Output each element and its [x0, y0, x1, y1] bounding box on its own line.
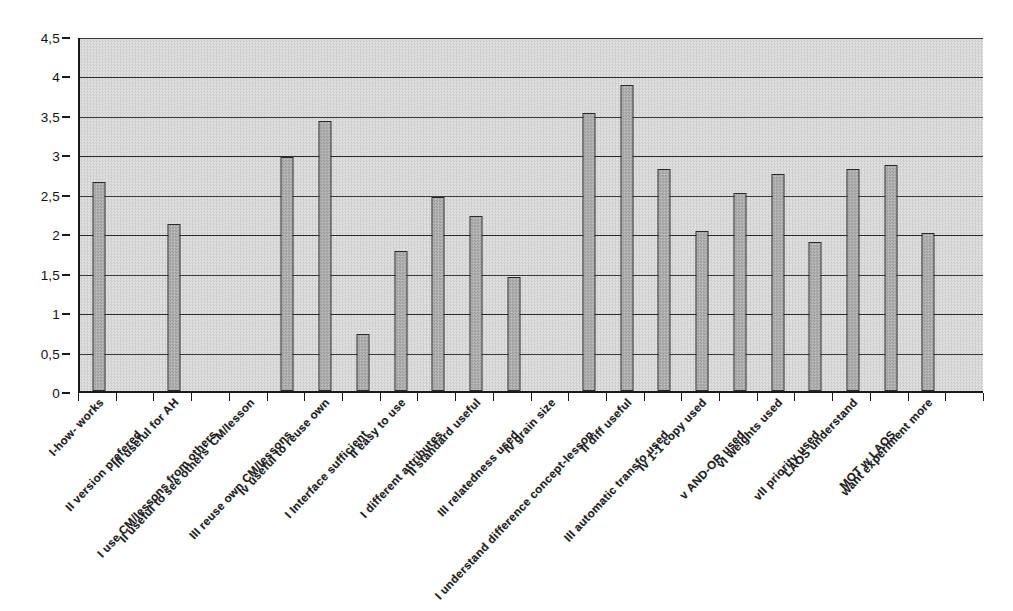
bar-slot — [570, 38, 608, 391]
y-tick-mark — [62, 116, 70, 118]
bar-slot — [721, 38, 759, 391]
bar — [733, 193, 746, 391]
bar-slot — [683, 38, 721, 391]
bar-slot — [495, 38, 533, 391]
bar — [432, 197, 445, 391]
x-axis-label: LAOS understand — [781, 396, 860, 479]
y-tick-label: 1,5 — [41, 267, 60, 282]
y-tick-label: 0,5 — [41, 346, 60, 361]
bar-slot — [419, 38, 457, 391]
bar — [771, 174, 784, 391]
bar-slot — [608, 38, 646, 391]
y-tick-mark — [62, 353, 70, 355]
x-axis-label: II useful to see others' CM/lesson — [117, 396, 257, 545]
x-axis-label: I-how- works — [46, 396, 105, 458]
x-axis-label: II diff useful — [578, 396, 634, 454]
bar — [92, 182, 105, 391]
y-tick-mark — [62, 37, 70, 39]
y-tick-label: 4,5 — [41, 31, 60, 46]
bar — [809, 242, 822, 391]
bar-slot — [344, 38, 382, 391]
y-tick-mark — [62, 76, 70, 78]
y-tick-label: 1 — [52, 307, 60, 322]
bar-chart: 00,511,522,533,544,5 I-how- worksII vers… — [0, 0, 1013, 611]
plot-area — [78, 38, 983, 393]
bar-slot — [80, 38, 118, 391]
bar-slot — [382, 38, 420, 391]
x-axis-label: want experiment more — [839, 396, 935, 498]
bar-slot — [306, 38, 344, 391]
y-tick-mark — [62, 274, 70, 276]
bar-slot — [118, 38, 156, 391]
bar-slot — [155, 38, 193, 391]
y-axis: 00,511,522,533,544,5 — [28, 38, 70, 393]
bar — [922, 233, 935, 391]
y-tick-mark — [62, 195, 70, 197]
bar-slot — [231, 38, 269, 391]
bar-slot — [796, 38, 834, 391]
bar-slot — [910, 38, 948, 391]
bar — [319, 121, 332, 391]
x-axis-label: I understand difference concept-lesson — [433, 428, 596, 602]
x-axis-label: III useful for AH — [111, 396, 181, 470]
y-tick-mark — [62, 234, 70, 236]
bar — [847, 169, 860, 391]
y-tick-mark — [62, 313, 70, 315]
y-tick-label: 2 — [52, 228, 60, 243]
y-tick-label: 3,5 — [41, 109, 60, 124]
bar — [168, 224, 181, 391]
bar-slot — [533, 38, 571, 391]
bar — [583, 113, 596, 391]
y-tick-label: 2,5 — [41, 188, 60, 203]
bar — [356, 334, 369, 391]
bar — [696, 231, 709, 391]
x-axis-label: II standard useful — [405, 396, 482, 478]
y-tick-mark — [62, 155, 70, 157]
x-axis-labels: I-how- worksII version preferedIII usefu… — [0, 396, 1013, 611]
x-axis-label: Iv grain size — [502, 396, 558, 455]
bar — [658, 169, 671, 391]
x-axis-label: vI weights used — [714, 396, 784, 470]
x-axis-label: II easy to use — [346, 396, 407, 460]
bar — [394, 251, 407, 391]
bar-slot — [269, 38, 307, 391]
y-tick-mark — [62, 392, 70, 394]
bar — [884, 165, 897, 391]
bar-slot — [759, 38, 797, 391]
bar-slot — [872, 38, 910, 391]
y-tick-label: 3 — [52, 149, 60, 164]
bar — [281, 157, 294, 391]
bar-slot — [834, 38, 872, 391]
x-axis-label: Iv 1-1 copy used — [636, 396, 709, 473]
bar-slot — [646, 38, 684, 391]
bar — [507, 277, 520, 391]
bar-slot — [193, 38, 231, 391]
y-tick-label: 4 — [52, 70, 60, 85]
bar-slot — [457, 38, 495, 391]
bar — [620, 85, 633, 391]
bars-layer — [80, 38, 983, 391]
bar — [469, 216, 482, 391]
